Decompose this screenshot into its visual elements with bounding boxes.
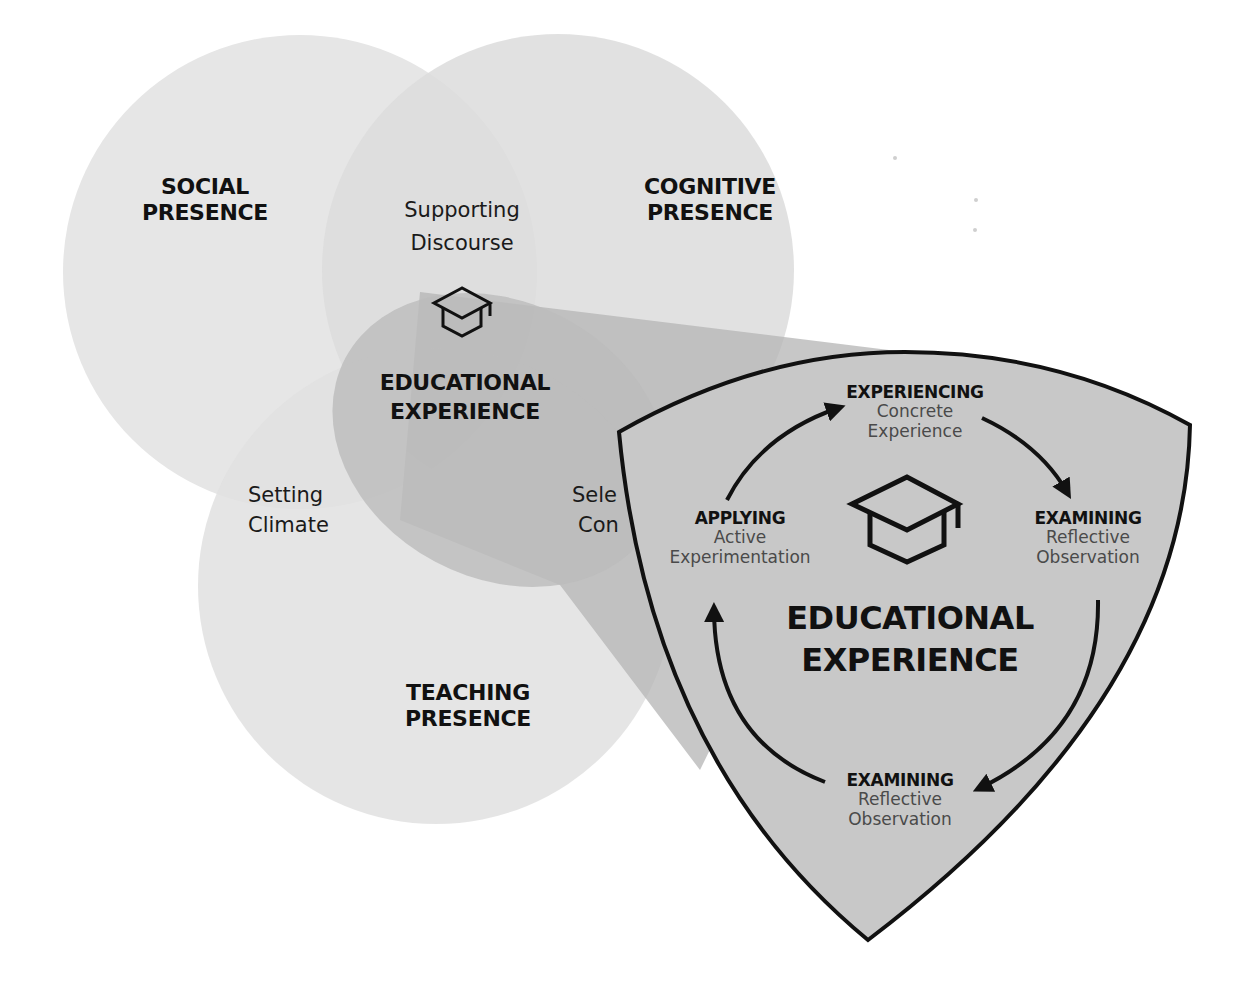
label-line: Sele (572, 480, 622, 510)
label-line: COGNITIVE (625, 174, 795, 200)
cognitive-presence-label: COGNITIVE PRESENCE (625, 174, 795, 227)
stage-applying: APPLYING Active Experimentation (650, 508, 830, 567)
label-line: Con (572, 510, 622, 540)
label-line: PRESENCE (383, 706, 553, 732)
stage-subtitle: Observation (1008, 548, 1168, 568)
stage-subtitle: Observation (820, 810, 980, 830)
supporting-discourse-label: Supporting Discourse (382, 194, 542, 259)
social-presence-label: SOCIAL PRESENCE (130, 174, 280, 227)
stage-subtitle: Concrete (820, 402, 1010, 422)
stage-title: EXAMINING (1008, 508, 1168, 528)
stage-title: EXPERIENCING (820, 382, 1010, 402)
label-line: EXPERIENCE (350, 398, 580, 427)
teaching-presence-label: TEACHING PRESENCE (383, 680, 553, 733)
shield-title: EDUCATIONAL EXPERIENCE (760, 598, 1060, 681)
label-line: Setting (248, 480, 358, 510)
stage-subtitle: Experience (820, 422, 1010, 442)
educational-experience-center-label: EDUCATIONAL EXPERIENCE (350, 369, 580, 426)
label-line: Climate (248, 510, 358, 540)
stage-experiencing: EXPERIENCING Concrete Experience (820, 382, 1010, 441)
label-line: PRESENCE (625, 200, 795, 226)
label-line: TEACHING (383, 680, 553, 706)
label-line: EDUCATIONAL (760, 598, 1060, 640)
stage-subtitle: Reflective (820, 790, 980, 810)
diagram-canvas (0, 0, 1259, 998)
label-line: Discourse (382, 227, 542, 260)
stage-subtitle: Active (650, 528, 830, 548)
scan-artifacts (893, 156, 978, 232)
selecting-content-label: Sele Con (572, 480, 622, 541)
stage-examining-right: EXAMINING Reflective Observation (1008, 508, 1168, 567)
label-line: SOCIAL (130, 174, 280, 200)
label-line: EDUCATIONAL (350, 369, 580, 398)
stage-examining-bottom: EXAMINING Reflective Observation (820, 770, 980, 829)
stage-title: APPLYING (650, 508, 830, 528)
label-line: EXPERIENCE (760, 640, 1060, 682)
label-line: Supporting (382, 194, 542, 227)
stage-title: EXAMINING (820, 770, 980, 790)
stage-subtitle: Experimentation (650, 548, 830, 568)
stage-subtitle: Reflective (1008, 528, 1168, 548)
setting-climate-label: Setting Climate (248, 480, 358, 541)
label-line: PRESENCE (130, 200, 280, 226)
